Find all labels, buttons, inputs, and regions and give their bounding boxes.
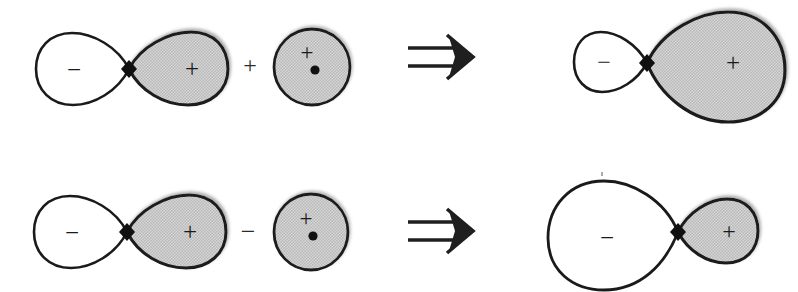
row2-s-orbital-nucleus-dot (308, 231, 317, 240)
row1-p-orbital-negative-label: − (67, 56, 81, 83)
row2-operator: − (241, 217, 256, 246)
row1-operator: + (243, 52, 257, 78)
row1-result-negative-label: − (597, 49, 611, 75)
row1-s-orbital-label: + (301, 40, 314, 65)
scan-speck (601, 172, 603, 176)
row2-s-orbital-label: + (300, 206, 313, 231)
row1-result-positive-label: + (726, 49, 740, 76)
row2-p-orbital-positive-label: + (183, 218, 197, 245)
row2-result-negative-label: − (600, 224, 614, 251)
figure-canvas: − + + + − + (0, 0, 798, 292)
row1-s-orbital: + (274, 29, 350, 105)
row2-s-orbital: + (274, 194, 348, 270)
row2-p-orbital-negative-label: − (65, 219, 79, 246)
row2-result-positive-label: + (722, 218, 736, 244)
row1-s-orbital-nucleus-dot (310, 65, 319, 74)
row1-p-orbital-positive-label: + (185, 55, 199, 82)
orbital-diagram-figure: − + + + − + (0, 0, 798, 292)
